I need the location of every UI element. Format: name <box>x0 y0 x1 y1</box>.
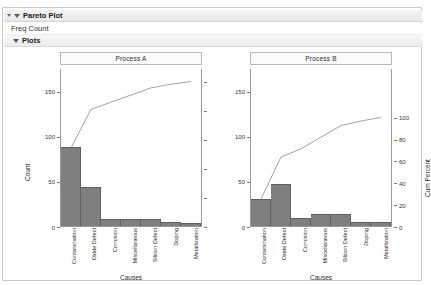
cumulative-line-a <box>61 69 201 226</box>
disclosure-triangle-icon[interactable] <box>7 14 11 17</box>
cumulative-line-b <box>251 69 391 226</box>
x-category-label: Contamination <box>72 228 78 264</box>
chevron-down-icon[interactable] <box>14 14 20 18</box>
y-tick: 0 <box>52 227 60 228</box>
y2-tick: 40 <box>394 183 406 184</box>
y-tick-label: 100 <box>45 134 55 140</box>
y-tick-label: 150 <box>235 89 245 95</box>
y2-tick-mark <box>204 111 207 112</box>
x-category-label: Miscellaneous <box>323 228 329 263</box>
y-tick-label: 50 <box>238 179 245 185</box>
y2-tick-mark <box>394 183 397 184</box>
x-axis-category-labels-b: ContaminationOxide DefectCorrosionMiscel… <box>250 228 392 274</box>
x-axis-category-labels-a: ContaminationOxide DefectCorrosionMiscel… <box>60 228 202 274</box>
y2-tick <box>204 111 207 112</box>
y2-tick-mark <box>204 140 207 141</box>
x-category-label: Corrosion <box>113 228 119 252</box>
y2-tick-label: 40 <box>399 181 406 187</box>
x-category-label: Oxide Defect <box>92 228 98 260</box>
y-tick-label: 0 <box>242 225 245 231</box>
y2-axis-cum-percent-b: Cum Percent 020406080100 <box>394 69 428 227</box>
y-tick: 50 <box>238 182 250 183</box>
y2-tick <box>204 198 207 199</box>
y-tick-label: 150 <box>45 89 55 95</box>
y2-tick: 100 <box>394 118 409 119</box>
y2-tick: 20 <box>394 205 406 206</box>
y2-tick-mark <box>394 161 397 162</box>
panel-header-process-a: Process A <box>60 52 202 65</box>
y-tick: 50 <box>48 182 60 183</box>
plot-area-process-b <box>250 69 392 227</box>
y2-tick: 60 <box>394 161 406 162</box>
y2-tick: 80 <box>394 140 406 141</box>
plots-area: Process A Count 050100150 ContaminationO… <box>4 48 422 281</box>
y2-tick <box>204 227 207 228</box>
disclosure-triangle-icon-plots[interactable] <box>13 39 19 43</box>
y-axis-count-a: Count 050100150 <box>26 69 60 227</box>
y2-tick-mark <box>394 227 397 228</box>
x-category-label: Metallization <box>384 228 390 259</box>
y-tick-label: 50 <box>48 179 55 185</box>
y2-tick-label: 60 <box>399 159 406 165</box>
x-category-label: Miscellaneous <box>133 228 139 263</box>
x-category-label: Corrosion <box>303 228 309 252</box>
y2-tick <box>204 82 207 83</box>
y2-tick <box>204 169 207 170</box>
x-category-label: Doping <box>364 228 370 246</box>
y2-tick-mark <box>204 169 207 170</box>
y-tick-label: 0 <box>52 225 55 231</box>
y2-tick-label: 80 <box>399 137 406 143</box>
y2-tick-mark <box>394 205 397 206</box>
panel-title-process-b: Process B <box>305 55 336 62</box>
y2-tick: 0 <box>394 227 402 228</box>
y2-axis-title-cum-percent-b: Cum Percent <box>424 159 431 197</box>
x-category-label: Silicon Defect <box>343 228 349 262</box>
y2-tick-label: 0 <box>399 225 402 231</box>
y2-tick-label: 20 <box>399 203 406 209</box>
outline-label-plots: Plots <box>22 37 40 45</box>
y-tick: 150 <box>235 92 250 93</box>
y-tick: 0 <box>242 227 250 228</box>
x-category-label: Silicon Defect <box>153 228 159 262</box>
outline-row-freq-count[interactable]: Freq Count <box>4 23 422 35</box>
plot-area-process-a <box>60 69 202 227</box>
x-axis-title-b: Causes <box>250 274 392 281</box>
y-tick: 100 <box>235 137 250 138</box>
cumulative-percent-line <box>71 82 191 148</box>
cumulative-percent-line <box>261 117 381 199</box>
y2-tick-mark <box>394 140 397 141</box>
x-axis-title-a: Causes <box>60 274 202 281</box>
x-category-label: Doping <box>174 228 180 246</box>
y-axis-title-count-a: Count <box>24 164 31 181</box>
y2-tick-mark <box>394 118 397 119</box>
outline-row-plots[interactable]: Plots <box>4 35 422 47</box>
y2-tick-mark <box>204 82 207 83</box>
x-category-label: Contamination <box>262 228 268 264</box>
outline-label-freq-count: Freq Count <box>11 25 49 33</box>
y-axis-count-b: 050100150 <box>216 69 250 227</box>
y2-tick-mark <box>204 227 207 228</box>
y2-tick-label: 100 <box>399 115 409 121</box>
report-frame: Pareto Plot Freq Count Plots Process A C… <box>2 7 422 281</box>
outline-row-pareto-plot[interactable]: Pareto Plot <box>4 10 422 22</box>
y-tick: 150 <box>45 92 60 93</box>
outline-label-pareto-plot: Pareto Plot <box>23 12 63 20</box>
pareto-panel-process-a: Process A Count 050100150 ContaminationO… <box>22 48 208 281</box>
y-tick: 100 <box>45 137 60 138</box>
x-category-label: Metallization <box>194 228 200 259</box>
y2-tick <box>204 140 207 141</box>
y-tick-label: 100 <box>235 134 245 140</box>
panel-header-process-b: Process B <box>250 52 392 65</box>
x-category-label: Oxide Defect <box>282 228 288 260</box>
pareto-panel-process-b: Process B 050100150 Cum Percent 02040608… <box>212 48 398 281</box>
panel-title-process-a: Process A <box>115 55 146 62</box>
y2-tick-mark <box>204 198 207 199</box>
